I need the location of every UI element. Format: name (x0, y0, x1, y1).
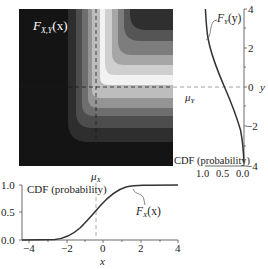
bottom-ytick-1: 1.0 (1, 179, 15, 191)
bottom-x-axis-label: x (99, 255, 105, 267)
mu-y-label: μY (184, 91, 196, 105)
right-xtick-05: 0.5 (216, 168, 229, 179)
marginal-fx-plot: 1.0 0.5 0.0 CDF (probability) −4 −2 0 2 … (1, 179, 181, 267)
bottom-ylabel: CDF (probability) (27, 183, 107, 196)
fx-leader-line (133, 189, 145, 205)
bottom-xtick-4: 4 (175, 242, 181, 254)
right-tick-2: 2 (248, 42, 254, 54)
bottom-ytick-0: 0.0 (1, 234, 15, 246)
right-x-axis-label: CDF (probability) (174, 155, 251, 167)
mu-x-label: μX (90, 170, 102, 184)
joint-cdf-heatmap: FX,Y(x) μX (19, 9, 173, 184)
figure: FX,Y(x) μX 4 2 0 −2 −4 y 1.0 0.5 0. (0, 0, 268, 269)
right-tick-4: 4 (248, 3, 254, 15)
right-tick-0: 0 (248, 81, 254, 93)
bottom-ytick-05: 0.5 (1, 206, 15, 218)
contour-band-11 (130, 9, 173, 30)
right-y-axis-label: y (259, 81, 265, 93)
fy-title: FY(y) (216, 12, 242, 26)
right-xtick-1: 1.0 (196, 168, 209, 179)
marginal-fy-plot: 4 2 0 −2 −4 y 1.0 0.5 0.0 CDF (probabili… (173, 3, 265, 179)
fy-curve (205, 9, 243, 162)
bottom-xtick-2: 2 (138, 242, 144, 254)
fx-title: FX(x) (135, 205, 161, 219)
bottom-xtick-0: 0 (100, 242, 106, 254)
right-tick-neg2: −2 (246, 120, 258, 132)
bottom-xtick-neg2: −2 (61, 242, 73, 254)
right-xtick-0: 0.0 (236, 168, 249, 179)
bottom-xtick-neg4: −4 (23, 242, 35, 254)
